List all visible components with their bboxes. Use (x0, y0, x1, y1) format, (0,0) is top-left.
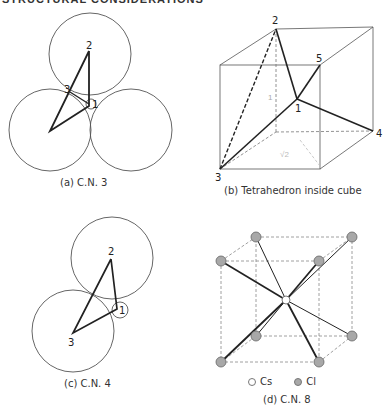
legend: Cs Cl (248, 376, 316, 387)
label-2: 2 (86, 40, 92, 51)
cl-atom (216, 357, 226, 367)
cube-hidden-edge (220, 132, 276, 169)
cl-atom (347, 331, 357, 341)
faint-label-sqrt2: √2 (280, 150, 289, 159)
panel-c-diagram: 2 1 3 (32, 217, 153, 372)
cube-edge (220, 29, 276, 65)
cube-edge (320, 131, 373, 169)
label-2: 2 (272, 15, 278, 26)
cube-back-face (256, 237, 352, 336)
legend-label-cl: Cl (306, 376, 316, 387)
tetra-bond-2-1 (276, 29, 297, 99)
panel-b-diagram: 2 5 1 4 3 1 √2 (215, 15, 382, 183)
label-1: 1 (295, 103, 301, 114)
bond (221, 300, 286, 362)
sphere-right (90, 89, 172, 171)
legend-swatch-cl (294, 378, 302, 386)
label-3: 3 (215, 172, 221, 183)
panel-a-diagram: 2 3 1 (9, 13, 172, 171)
sphere-lower (32, 290, 114, 372)
faint-diagonal (300, 140, 320, 166)
label-3: 3 (64, 84, 70, 95)
faint-label-1: 1 (268, 93, 273, 102)
cl-atom (347, 232, 357, 242)
cl-atom (314, 256, 324, 266)
cl-atom (216, 256, 226, 266)
panel-d-diagram (216, 232, 357, 367)
label-1: 1 (119, 305, 125, 316)
cube-edge (221, 237, 256, 261)
caption-a: (a) C.N. 3 (60, 177, 107, 188)
cs-atom (282, 296, 290, 304)
bond (286, 261, 319, 300)
legend-label-cs: Cs (260, 376, 272, 387)
cl-atom (314, 357, 324, 367)
caption-c: (c) C.N. 4 (64, 378, 111, 389)
label-2: 2 (108, 246, 114, 257)
cube-edge (319, 237, 352, 261)
cube-edge (319, 336, 352, 362)
label-1: 1 (92, 99, 98, 110)
legend-swatch-cs (248, 378, 256, 386)
cube-edge (320, 27, 373, 65)
figure-canvas: 2 3 1 2 5 1 4 3 1 √2 (0, 0, 387, 414)
caption-d: (d) C.N. 8 (263, 394, 311, 405)
label-3: 3 (68, 337, 74, 348)
tetra-bond-1-5 (297, 65, 320, 99)
caption-b: (b) Tetrahedron inside cube (224, 185, 362, 196)
cube-front-face (220, 65, 320, 169)
cl-atom (251, 331, 261, 341)
label-4: 4 (376, 128, 382, 139)
label-5: 5 (316, 53, 322, 64)
tetra-bond-1-4 (297, 99, 373, 131)
cube-hidden-edge (276, 131, 373, 132)
sphere-upper (71, 217, 153, 299)
cl-atom (251, 232, 261, 242)
bond (256, 300, 286, 336)
sphere-top (49, 13, 131, 95)
